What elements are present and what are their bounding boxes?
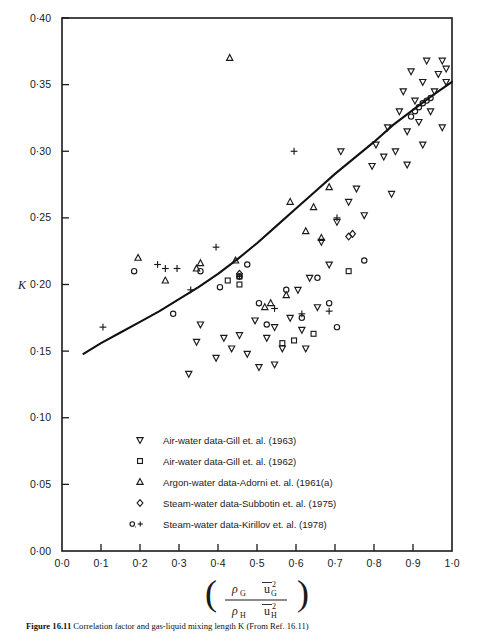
data-point: [193, 339, 199, 345]
data-point: [311, 331, 316, 336]
data-point: [307, 275, 313, 281]
svg-text:H: H: [271, 611, 277, 620]
svg-text:,: ,: [134, 520, 136, 529]
data-point: [287, 198, 293, 204]
y-tick-label: 0·20: [30, 278, 51, 290]
data-point: [287, 315, 293, 321]
data-point: [197, 260, 203, 266]
svg-text:2: 2: [272, 602, 276, 611]
data-point: [396, 109, 402, 115]
data-point: [420, 80, 426, 86]
data-point: [404, 162, 410, 168]
y-tick-label: 0·15: [30, 345, 51, 357]
legend-marker-diamond: [137, 500, 143, 507]
y-tick-label: 0·00: [30, 545, 51, 557]
data-point: [412, 98, 418, 104]
data-point: [427, 109, 433, 115]
series-5: [100, 148, 341, 331]
x-label-u-g: u: [264, 582, 270, 596]
y-tick-label: 0·10: [30, 411, 51, 423]
x-tick-label: 0·0: [54, 557, 69, 569]
data-point: [268, 300, 274, 306]
data-point: [346, 233, 352, 240]
data-point: [350, 230, 356, 237]
data-point: [392, 149, 398, 155]
data-point: [303, 228, 309, 234]
data-point: [381, 154, 387, 160]
legend-label: Air-water data-Gill et. al. (1962): [163, 456, 296, 467]
series-0: [186, 58, 450, 377]
svg-text:G: G: [271, 589, 277, 598]
data-point: [362, 258, 367, 263]
data-point: [416, 119, 422, 125]
data-point: [256, 301, 261, 306]
data-point: [439, 58, 445, 64]
data-point: [326, 301, 331, 306]
data-point: [271, 362, 277, 368]
paren-left: (: [205, 573, 217, 613]
data-point: [420, 142, 426, 148]
data-point: [299, 327, 305, 333]
x-tick-label: 1·0: [444, 557, 459, 569]
x-label-u-h: u: [264, 604, 270, 618]
legend-label: Argon-water data-Adorni et. al. (1961(a): [163, 477, 333, 488]
data-point: [361, 213, 367, 219]
svg-text:G: G: [240, 589, 246, 598]
data-point: [262, 304, 268, 310]
data-point: [217, 285, 222, 290]
y-tick-label: 0·25: [30, 211, 51, 223]
data-point: [244, 351, 250, 357]
data-point: [346, 269, 351, 274]
x-tick-label: 0·8: [366, 557, 381, 569]
y-tick-label: 0·05: [30, 478, 51, 490]
data-point: [229, 346, 235, 352]
series-1: [225, 269, 351, 346]
data-point: [264, 322, 269, 327]
legend-marker-triangle-up: [137, 479, 143, 485]
y-tick-label: 0·35: [30, 78, 51, 90]
data-point: [197, 322, 203, 328]
svg-text:2: 2: [272, 580, 276, 589]
data-point: [408, 69, 414, 75]
data-point: [162, 277, 168, 283]
series-3: [237, 230, 356, 277]
data-point: [170, 311, 175, 316]
data-point: [439, 125, 445, 131]
x-tick-label: 0·1: [93, 557, 108, 569]
data-point: [295, 287, 301, 293]
x-label-rho-h: ρ: [231, 604, 238, 618]
plot-frame: [62, 18, 452, 551]
data-point: [292, 338, 297, 343]
data-point: [186, 371, 192, 377]
x-axis-title: ()ρGuG2ρHuH2: [205, 573, 309, 620]
correlation-curve: [83, 82, 452, 354]
x-tick-label: 0·9: [405, 557, 420, 569]
data-point: [400, 89, 406, 95]
data-series-group: [100, 55, 450, 378]
data-point: [213, 355, 219, 361]
data-point: [135, 254, 141, 260]
legend-label: Air-water data-Gill et. al. (1963): [163, 435, 296, 446]
legend-marker-square: [138, 459, 143, 464]
figure-caption: Figure 16.11 Correlation factor and gas-…: [26, 621, 474, 637]
data-point: [314, 305, 320, 311]
x-tick-label: 0·3: [171, 557, 186, 569]
data-point: [404, 129, 410, 135]
data-point: [326, 184, 332, 190]
data-point: [353, 186, 359, 192]
scatter-plot: 0·000·050·100·150·200·250·300·350·40K0·0…: [0, 0, 477, 620]
data-point: [435, 72, 441, 78]
data-point: [237, 282, 242, 287]
legend-label: Steam-water data-Kirillov et. al. (1978): [163, 519, 327, 530]
data-point: [315, 275, 320, 280]
y-axis-title: K: [17, 278, 27, 292]
x-tick-label: 0·4: [210, 557, 225, 569]
data-point: [369, 163, 375, 169]
legend-marker-triangle-down: [137, 438, 143, 444]
caption-label: Figure 16.11: [26, 621, 71, 631]
data-point: [221, 335, 227, 341]
data-point: [131, 269, 136, 274]
data-point: [227, 55, 233, 61]
data-point: [443, 66, 449, 72]
x-tick-label: 0·2: [132, 557, 147, 569]
